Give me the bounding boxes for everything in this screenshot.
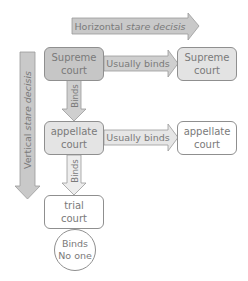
supreme-court-right-node: Supreme court bbox=[177, 47, 237, 81]
vertical-stare-decisis-label: Vertical stare decisis bbox=[22, 71, 33, 169]
node-line-2: court bbox=[61, 212, 87, 225]
horizontal-stare-decisis-label: Horizontal stare decisis bbox=[74, 21, 185, 32]
vertical-stare-decisis-arrow: Vertical stare decisis bbox=[15, 52, 40, 199]
appellate-usually-binds-arrow: Usually binds bbox=[104, 124, 178, 151]
appellate-binds-trial-label: Binds bbox=[70, 159, 80, 183]
node-line-1: appellate bbox=[51, 125, 98, 138]
node-line-1: Supreme bbox=[185, 51, 230, 64]
node-line-1: appellate bbox=[184, 125, 231, 138]
node-line-2: court bbox=[194, 64, 220, 77]
node-line-1: Binds bbox=[62, 238, 88, 250]
horizontal-stare-decisis-arrow: Horizontal stare decisis bbox=[72, 13, 199, 40]
node-line-2: court bbox=[194, 138, 220, 151]
node-line-1: trial bbox=[64, 199, 84, 212]
appellate-court-left-node: appellate court bbox=[44, 121, 104, 155]
node-line-2: No one bbox=[58, 250, 92, 262]
appellate-court-right-node: appellate court bbox=[177, 121, 237, 155]
supreme-usually-binds-label: Usually binds bbox=[106, 58, 169, 69]
supreme-usually-binds-arrow: Usually binds bbox=[104, 50, 178, 77]
appellate-binds-trial-arrow: Binds bbox=[62, 155, 86, 195]
trial-court-node: trial court bbox=[44, 195, 104, 229]
supreme-binds-appellate-arrow: Binds bbox=[62, 80, 86, 121]
node-line-2: court bbox=[61, 138, 87, 151]
appellate-usually-binds-label: Usually binds bbox=[106, 132, 169, 143]
supreme-court-left-node: Supreme court bbox=[44, 47, 104, 81]
binds-no-one-node: Binds No one bbox=[54, 229, 96, 271]
node-line-2: court bbox=[61, 64, 87, 77]
supreme-binds-appellate-label: Binds bbox=[70, 84, 80, 108]
node-line-1: Supreme bbox=[52, 51, 97, 64]
